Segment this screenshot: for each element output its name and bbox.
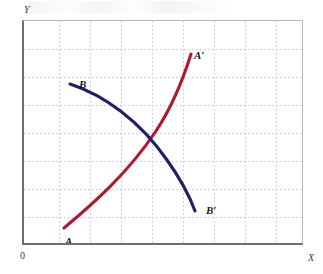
curve-b-to-b-prime [70,84,195,211]
x-axis-label: X [308,252,314,263]
y-axis-label: Y [24,4,30,15]
point-label-b-prime: B′ [206,204,216,216]
point-label-a-prime: A′ [194,49,204,61]
point-label-a: A [65,235,72,245]
figure-container: Y X 0 [0,0,323,274]
plot-area: A A′ B B′ Graph for Problem 8 [22,20,303,245]
scan-artifact [30,1,230,13]
origin-label: 0 [20,250,25,261]
point-label-b: B [79,78,86,90]
curve-group [24,21,303,245]
